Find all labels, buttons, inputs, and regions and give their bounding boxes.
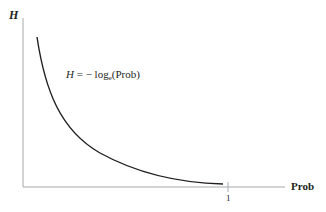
y-axis-label: H xyxy=(9,8,18,23)
formula-lhs: H xyxy=(66,68,74,80)
formula-annotation: H = − loge(Prob) xyxy=(66,68,140,82)
formula-eq: = − log xyxy=(74,68,109,80)
formula-rhs: (Prob) xyxy=(112,68,140,80)
chart-canvas xyxy=(0,0,326,212)
x-tick-label: 1 xyxy=(226,193,231,203)
x-axis-label: Prob xyxy=(291,180,314,192)
curve-neg-log xyxy=(37,37,223,184)
